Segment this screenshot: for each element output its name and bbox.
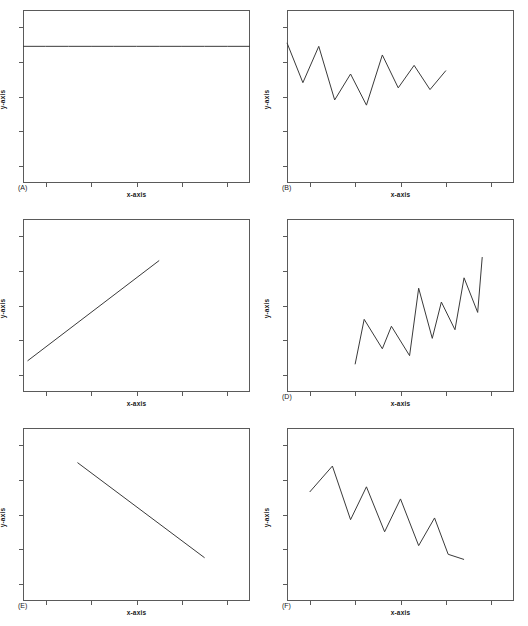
panel-c-y-tick [19,271,23,272]
panel-f-y-tick [283,480,287,481]
panel-e-y-tick [19,584,23,585]
panel-c-x-tick [182,392,183,396]
panel-e-y-axis-label: y-axis [0,508,6,528]
panel-f-x-tick [310,601,311,605]
panel-a-y-tick [19,131,23,132]
panel-a-letter: (A) [18,184,27,191]
panel-b-x-tick [446,183,447,187]
panel-c-y-tick [19,375,23,376]
panel-e-x-tick [91,601,92,605]
panel-d-series-line [355,257,482,364]
panel-c-y-tick [19,306,23,307]
panel-a-y-tick [19,27,23,28]
panel-e-y-tick [19,445,23,446]
panel-a-y-tick [19,62,23,63]
panel-b-y-tick [283,166,287,167]
six-panel-line-chart-figure: y-axis x-axis (A) y-axis x-axis (B) y-ax… [0,0,528,626]
panel-c-y-tick [19,340,23,341]
panel-b-x-tick [355,183,356,187]
panel-a-x-tick [91,183,92,187]
panel-b-y-tick [283,62,287,63]
panel-e-letter: (E) [18,602,27,609]
panel-e-x-tick [137,601,138,605]
panel-a-x-axis-label: x-axis [23,191,250,198]
panel-f-y-tick [283,445,287,446]
panel-d-x-axis-label: x-axis [287,400,514,407]
panel-a-y-tick [19,166,23,167]
panel-c-x-tick [91,392,92,396]
panel-f: y-axis x-axis (F) [264,418,528,626]
panel-f-y-tick [283,515,287,516]
panel-c-x-tick [227,392,228,396]
panel-d-x-tick [491,392,492,396]
panel-e-series-svg [23,428,250,601]
panel-c-x-tick [137,392,138,396]
panel-e-x-axis-label: x-axis [23,609,250,616]
panel-b-y-tick [283,97,287,98]
panel-f-x-tick [401,601,402,605]
panel-f-series-line [310,466,464,559]
panel-d-y-tick [283,375,287,376]
panel-c-y-axis-label: y-axis [0,299,6,319]
panel-b-x-axis-label: x-axis [287,191,514,198]
panel-b-x-tick [310,183,311,187]
panel-a-series-svg [23,10,250,183]
panel-d-letter: (D) [282,393,292,400]
panel-b-series-line [287,43,446,105]
panel-a-y-axis-label: y-axis [0,90,6,110]
panel-c-series-line [28,261,160,361]
panel-e-x-tick [182,601,183,605]
panel-e: y-axis x-axis (E) [0,418,264,626]
panel-e-y-tick [19,480,23,481]
panel-e-y-tick [19,515,23,516]
panel-d-y-tick [283,271,287,272]
panel-d-x-tick [446,392,447,396]
panel-f-x-tick [355,601,356,605]
panel-e-y-tick [19,549,23,550]
panel-c-x-tick [46,392,47,396]
panel-f-letter: (F) [282,602,291,609]
panel-b-y-tick [283,27,287,28]
panel-d-series-svg [287,219,514,392]
panel-b-letter: (B) [282,184,291,191]
panel-f-x-tick [446,601,447,605]
panel-f-x-tick [491,601,492,605]
panel-b-x-tick [401,183,402,187]
panel-e-x-tick [227,601,228,605]
panel-f-x-axis-label: x-axis [287,609,514,616]
panel-e-series-line [77,463,204,558]
panel-c-y-tick [19,236,23,237]
panel-c: y-axis x-axis [0,209,264,417]
panel-a-x-tick [137,183,138,187]
panel-b-y-axis-label: y-axis [263,90,270,110]
panel-a-y-tick [19,97,23,98]
panel-d-x-tick [401,392,402,396]
panel-e-x-tick [46,601,47,605]
panel-d-y-tick [283,236,287,237]
panel-b-series-svg [287,10,514,183]
panel-b: y-axis x-axis (B) [264,0,528,208]
panel-b-x-tick [491,183,492,187]
panel-a-x-tick [227,183,228,187]
panel-d-y-axis-label: y-axis [263,299,270,319]
panel-d: y-axis x-axis (D) [264,209,528,417]
panel-d-x-tick [310,392,311,396]
panel-b-y-tick [283,131,287,132]
panel-a-x-tick [182,183,183,187]
panel-f-series-svg [287,428,514,601]
panel-f-y-tick [283,549,287,550]
panel-c-x-axis-label: x-axis [23,400,250,407]
panel-f-y-axis-label: y-axis [263,508,270,528]
panel-a-x-tick [46,183,47,187]
panel-d-y-tick [283,306,287,307]
panel-d-x-tick [355,392,356,396]
panel-d-y-tick [283,340,287,341]
panel-a: y-axis x-axis (A) [0,0,264,208]
panel-c-series-svg [23,219,250,392]
panel-f-y-tick [283,584,287,585]
